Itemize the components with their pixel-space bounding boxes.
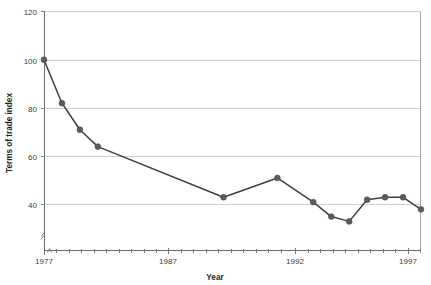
data-point [59, 100, 65, 106]
data-point [382, 194, 388, 200]
x-tick-labels: 1977 1987 1992 1997 [35, 257, 417, 266]
x-axis-title: Year [206, 273, 224, 282]
line-chart: 120 100 80 60 40 Terms of trade index [0, 0, 431, 285]
data-point [310, 199, 316, 205]
series-line [44, 60, 421, 222]
data-point [41, 57, 47, 63]
x-tick-label-1997: 1997 [399, 257, 417, 266]
y-tick-label-100: 100 [24, 57, 38, 66]
data-point [95, 144, 101, 150]
data-point [274, 175, 280, 181]
x-tick-label-1987: 1987 [159, 257, 177, 266]
x-tick-label-1977: 1977 [35, 257, 53, 266]
data-point [364, 197, 370, 203]
series-markers [41, 57, 424, 224]
data-point [328, 214, 334, 220]
y-axis-title: Terms of trade index [5, 93, 14, 173]
y-axis-break-icon [41, 233, 44, 240]
y-tick-label-60: 60 [28, 153, 37, 162]
data-series-terms-of-trade-index [41, 57, 424, 224]
data-point [77, 127, 83, 133]
y-tick-label-80: 80 [28, 105, 37, 114]
y-tick-label-40: 40 [28, 201, 37, 210]
x-axis [45, 247, 422, 255]
data-point [400, 194, 406, 200]
chart-container: 120 100 80 60 40 Terms of trade index [0, 0, 431, 285]
gridlines [44, 12, 421, 205]
y-tick-label-120: 120 [24, 8, 38, 17]
data-point [346, 218, 352, 224]
data-point [418, 206, 424, 212]
data-point [221, 194, 227, 200]
y-tick-labels: 120 100 80 60 40 [24, 8, 38, 210]
x-tick-label-1992: 1992 [286, 257, 304, 266]
y-axis [41, 12, 45, 251]
